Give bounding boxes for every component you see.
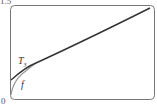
plot-frame [11, 6, 155, 100]
plot-canvas [0, 0, 157, 108]
label-t3: T3 [18, 56, 27, 68]
label-f: f [21, 80, 24, 90]
y-tick-top: 1.5 [0, 0, 11, 6]
label-t3-sub: 3 [24, 62, 27, 68]
y-tick-bottom: 0 [1, 97, 6, 106]
curve-t3 [11, 8, 150, 80]
